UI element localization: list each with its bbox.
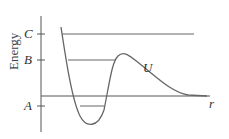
level-b-label: B <box>24 53 32 66</box>
energy-diagram <box>0 0 229 139</box>
x-axis-label: r <box>209 97 214 110</box>
level-a-label: A <box>24 99 32 112</box>
level-c-label: C <box>24 27 33 40</box>
y-axis-label: Energy <box>6 33 22 70</box>
curve-label-u: U <box>143 61 152 74</box>
potential-curve <box>61 27 207 124</box>
